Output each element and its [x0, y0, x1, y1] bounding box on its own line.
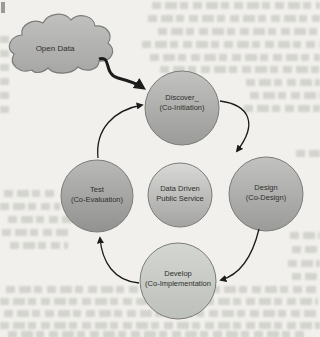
open-data-cocreation-lifecycle-diagram: Open Data Discover_ (Co-Initiation) Desi… [0, 0, 320, 337]
develop-label-line1: Develop [164, 269, 192, 278]
scanned-page-figure: Open Data Discover_ (Co-Initiation) Desi… [0, 0, 320, 337]
arrow-open-data-to-discover [99, 58, 142, 87]
center-label-line2: Public Service [156, 194, 204, 203]
test-label-line2: (Co-Evaluation) [71, 195, 124, 204]
discover-label-line1: Discover_ [165, 93, 199, 102]
design-label-line1: Design [254, 183, 277, 192]
arrow-test-to-discover [98, 105, 142, 158]
open-data-label: Open Data [36, 44, 75, 53]
center-label-line1: Data Driven [160, 184, 200, 193]
develop-label-line2: (Co-Implementation [145, 279, 211, 288]
arrow-develop-to-test [100, 238, 139, 283]
arrow-discover-to-design [220, 101, 249, 151]
test-label-line1: Test [90, 185, 105, 194]
design-label-line2: (Co-Design) [246, 193, 287, 202]
discover-label-line2: (Co-Initiation) [159, 103, 205, 112]
arrow-design-to-develop [221, 229, 259, 280]
